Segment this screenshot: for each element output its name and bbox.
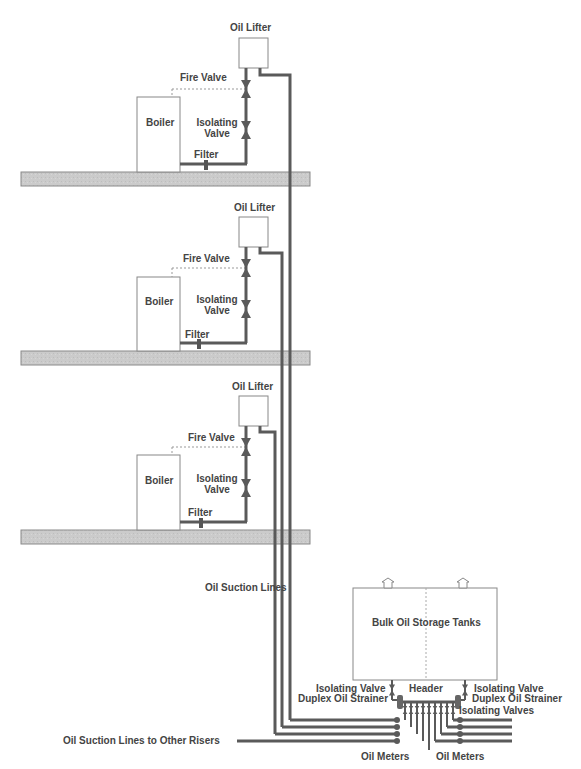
left-strainer-label: Duplex Oil Strainer [298,693,388,704]
fire-valve-label: Fire Valve [188,432,235,443]
boiler-box [137,455,180,530]
floor-slab-3 [21,530,310,544]
isolating-valve-label: Isolating Valve [192,117,242,139]
isolating-valve-label: Isolating Valve [192,294,242,316]
other-risers-label: Oil Suction Lines to Other Risers [63,735,220,746]
boiler-label: Boiler [145,475,173,486]
bulk-tanks-label: Bulk Oil Storage Tanks [372,617,481,628]
filter-label: Filter [188,507,212,518]
isolating-line1: Isolating [196,473,237,484]
oil-lifter-box [239,38,268,68]
floor-slab-1 [21,172,310,186]
right-strainer-label: Duplex Oil Strainer [472,693,562,704]
floor-3-equipment [137,396,275,734]
isolating-valve-label: Isolating Valve [192,473,242,495]
filter-label: Filter [185,329,209,340]
isolating-line2: Valve [204,128,230,139]
isolating-line1: Isolating [196,117,237,128]
fire-valve-label: Fire Valve [180,72,227,83]
oil-meters-right-label: Oil Meters [436,751,484,762]
boiler-label: Boiler [146,117,174,128]
schematic-drawing [0,0,581,769]
bulk-tanks-box [353,588,497,680]
oil-lifter-box [239,396,268,426]
oil-lifter-label: Oil Lifter [232,381,273,392]
boiler-label: Boiler [145,296,173,307]
isolating-line1: Isolating [196,294,237,305]
oil-suction-lines-label: Oil Suction Lines [205,582,287,593]
oil-lifter-box [239,217,268,247]
isolating-valves-label: Isolating Valves [459,705,534,716]
fire-valve-label: Fire Valve [183,253,230,264]
floor-slab-2 [21,351,310,365]
floor-1-equipment [137,38,290,720]
isolating-line2: Valve [204,484,230,495]
oil-lifter-label: Oil Lifter [234,202,275,213]
boiler-box [137,97,180,172]
filter-label: Filter [194,149,218,160]
boiler-box [137,277,180,351]
oil-lifter-label: Oil Lifter [230,22,271,33]
isolating-line2: Valve [204,305,230,316]
oil-meters-left-label: Oil Meters [361,751,409,762]
header-label: Header [409,683,443,694]
